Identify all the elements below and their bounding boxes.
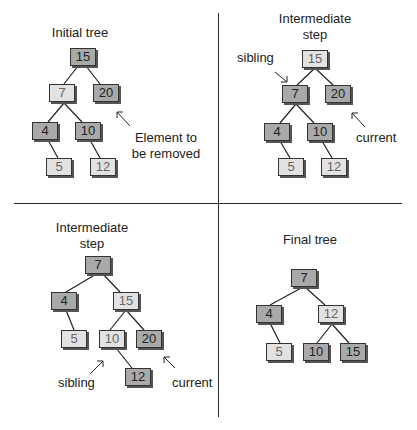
tree-edges (0, 0, 417, 430)
node: 15 (70, 48, 96, 66)
node: 4 (32, 122, 58, 140)
node: 10 (99, 330, 125, 348)
node: 5 (266, 343, 292, 361)
node: 5 (61, 330, 87, 348)
node: 7 (85, 256, 111, 274)
node: 15 (302, 50, 328, 68)
annotation-current: current (172, 375, 212, 391)
node: 7 (291, 269, 317, 287)
annotation-sibling: sibling (237, 50, 274, 66)
node: 15 (113, 292, 139, 310)
node: 7 (49, 84, 75, 102)
annotation-current: current (356, 130, 396, 146)
node: 5 (278, 158, 304, 176)
node: 15 (340, 343, 366, 361)
node: 10 (75, 122, 101, 140)
panel-1-title: Initial tree (40, 25, 120, 41)
panel-3-title: Intermediate step (52, 220, 132, 252)
node: 20 (325, 85, 351, 103)
node: 20 (93, 84, 119, 102)
node: 12 (90, 158, 116, 176)
node: 20 (136, 330, 162, 348)
node: 12 (318, 305, 344, 323)
node: 5 (46, 158, 72, 176)
annotation-sibling: sibling (58, 375, 95, 391)
node: 12 (125, 368, 151, 386)
node: 12 (321, 158, 347, 176)
node: 4 (51, 292, 77, 310)
node: 10 (307, 123, 333, 141)
node: 4 (256, 305, 282, 323)
node: 4 (264, 123, 290, 141)
panel-2-title: Intermediate step (275, 11, 355, 43)
node: 7 (282, 85, 308, 103)
panel-4-title: Final tree (275, 232, 345, 248)
node: 10 (303, 343, 329, 361)
annotation-element-to-be-removed: Element to be removed (128, 130, 204, 162)
